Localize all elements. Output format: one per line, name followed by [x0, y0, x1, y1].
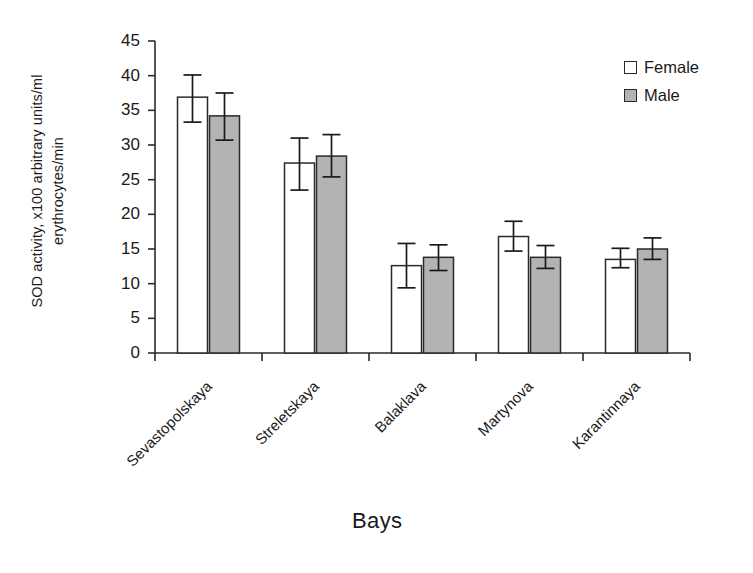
legend-label: Female — [644, 58, 699, 77]
bar-female-0 — [178, 97, 208, 353]
bar-female-1 — [285, 163, 315, 353]
bar-male-2 — [424, 257, 454, 353]
bar-male-3 — [531, 257, 561, 353]
bar-male-4 — [638, 249, 668, 353]
y-axis-tick-label: 0 — [100, 344, 140, 361]
y-axis-tick-label: 40 — [100, 67, 140, 84]
y-axis-tick-label: 10 — [100, 275, 140, 292]
bar-female-3 — [499, 237, 529, 353]
legend-item-male: Male — [624, 86, 680, 105]
legend-item-female: Female — [624, 58, 699, 77]
y-axis-tick-label: 15 — [100, 240, 140, 257]
y-axis-tick-label: 35 — [100, 101, 140, 118]
chart-figure: SOD activity, x100 arbitrary units/ml er… — [0, 0, 753, 573]
bar-male-0 — [210, 116, 240, 353]
bar-male-1 — [317, 156, 347, 353]
bar-female-4 — [606, 259, 636, 353]
filled-square-icon — [624, 89, 637, 102]
open-square-icon — [624, 61, 637, 74]
legend-label: Male — [644, 86, 680, 105]
x-axis-title: Bays — [352, 508, 403, 534]
y-axis-tick-label: 25 — [100, 171, 140, 188]
y-axis-tick-label: 20 — [100, 205, 140, 222]
y-axis-tick-label: 5 — [100, 309, 140, 326]
y-axis-tick-label: 30 — [100, 136, 140, 153]
y-axis-tick-label: 45 — [100, 32, 140, 49]
